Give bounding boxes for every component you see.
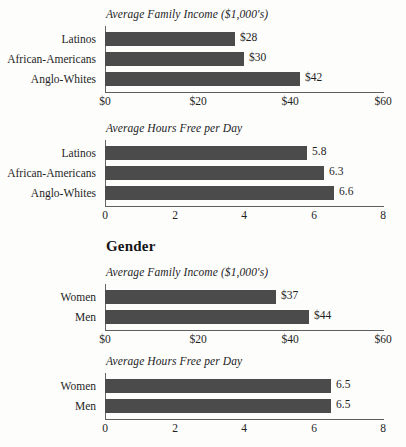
- x-axis-tick-label: $20: [189, 95, 206, 107]
- chart-title: Average Hours Free per Day: [106, 355, 242, 367]
- bar-value-label: $28: [240, 31, 257, 43]
- category-label: Latinos: [0, 32, 96, 46]
- x-axis-tick-label: $60: [374, 333, 391, 345]
- bar-row: 6.5: [105, 379, 383, 393]
- category-label: Men: [0, 310, 96, 324]
- plot-area: $37$44: [105, 284, 383, 330]
- value-axis-line: [105, 92, 384, 93]
- x-axis-tick-label: 0: [102, 422, 108, 434]
- bar: [105, 379, 331, 393]
- x-axis-tick-label: $20: [189, 333, 206, 345]
- bar-row: $42: [105, 72, 383, 86]
- chart-title: Average Family Income ($1,000's): [106, 266, 268, 278]
- x-axis-tick-label: 8: [380, 422, 386, 434]
- x-axis-tick-label: 4: [241, 422, 247, 434]
- bar-row: $28: [105, 32, 383, 46]
- category-label: Latinos: [0, 146, 96, 160]
- x-axis-tick-label: $0: [99, 95, 111, 107]
- plot-area: $28$30$42: [105, 26, 383, 92]
- bar: [105, 399, 331, 413]
- plot-area: 6.56.5: [105, 373, 383, 419]
- bar-value-label: $44: [314, 309, 331, 321]
- category-label: Women: [0, 379, 96, 393]
- bar: [105, 310, 309, 324]
- bar: [105, 72, 300, 86]
- value-axis-line: [105, 419, 384, 420]
- bar-row: 6.6: [105, 186, 383, 200]
- category-label: African-Americans: [0, 166, 96, 180]
- bar: [105, 52, 244, 66]
- x-axis-tick-label: 4: [241, 209, 247, 221]
- value-axis-line: [105, 206, 384, 207]
- chart-title: Average Family Income ($1,000's): [106, 8, 268, 20]
- bar-row: 5.8: [105, 146, 383, 160]
- category-label: Men: [0, 399, 96, 413]
- bar: [105, 290, 276, 304]
- bar-value-label: $30: [249, 51, 266, 63]
- bar-value-label: 6.5: [336, 398, 350, 410]
- x-axis-tick-label: 2: [172, 422, 178, 434]
- category-label: Women: [0, 290, 96, 304]
- bar-value-label: 5.8: [312, 145, 326, 157]
- category-label: African-Americans: [0, 52, 96, 66]
- x-axis-tick-label: $60: [374, 95, 391, 107]
- bar-value-label: $37: [281, 289, 298, 301]
- bar: [105, 166, 324, 180]
- category-label: Anglo-Whites: [0, 186, 96, 200]
- x-axis-tick-label: 2: [172, 209, 178, 221]
- category-label: Anglo-Whites: [0, 72, 96, 86]
- x-axis-tick-label: 8: [380, 209, 386, 221]
- bar: [105, 32, 235, 46]
- x-axis-tick-label: $40: [281, 95, 298, 107]
- bar-row: 6.5: [105, 399, 383, 413]
- x-axis-tick-label: $0: [99, 333, 111, 345]
- x-axis-tick-label: 0: [102, 209, 108, 221]
- bar: [105, 146, 307, 160]
- bar-row: $44: [105, 310, 383, 324]
- x-axis-tick-label: 6: [311, 422, 317, 434]
- bar-row: 6.3: [105, 166, 383, 180]
- figure-page: Average Family Income ($1,000's)LatinosA…: [0, 0, 406, 447]
- bar-value-label: 6.6: [339, 185, 353, 197]
- bar-value-label: 6.5: [336, 378, 350, 390]
- plot-area: 5.86.36.6: [105, 140, 383, 206]
- bar-value-label: $42: [305, 71, 322, 83]
- value-axis-line: [105, 330, 384, 331]
- x-axis-tick-label: $40: [281, 333, 298, 345]
- x-axis-tick-label: 6: [311, 209, 317, 221]
- bar-value-label: 6.3: [329, 165, 343, 177]
- section-heading-gender: Gender: [106, 238, 156, 255]
- bar: [105, 186, 334, 200]
- bar-row: $30: [105, 52, 383, 66]
- chart-title: Average Hours Free per Day: [106, 122, 242, 134]
- bar-row: $37: [105, 290, 383, 304]
